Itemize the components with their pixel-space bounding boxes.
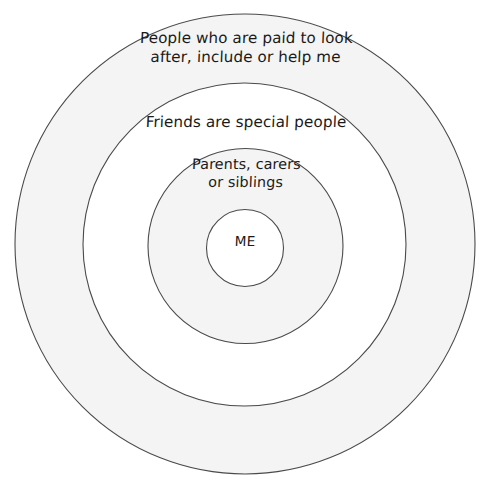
ring-label-outer: People who are paid to look after, inclu… bbox=[95, 29, 397, 68]
ring-label-friends: Friends are special people bbox=[96, 113, 397, 132]
ring-label-me: ME bbox=[195, 234, 296, 251]
ring-label-family: Parents, carers or siblings bbox=[129, 156, 363, 193]
circles-of-support-diagram: People who are paid to look after, inclu… bbox=[0, 0, 492, 501]
